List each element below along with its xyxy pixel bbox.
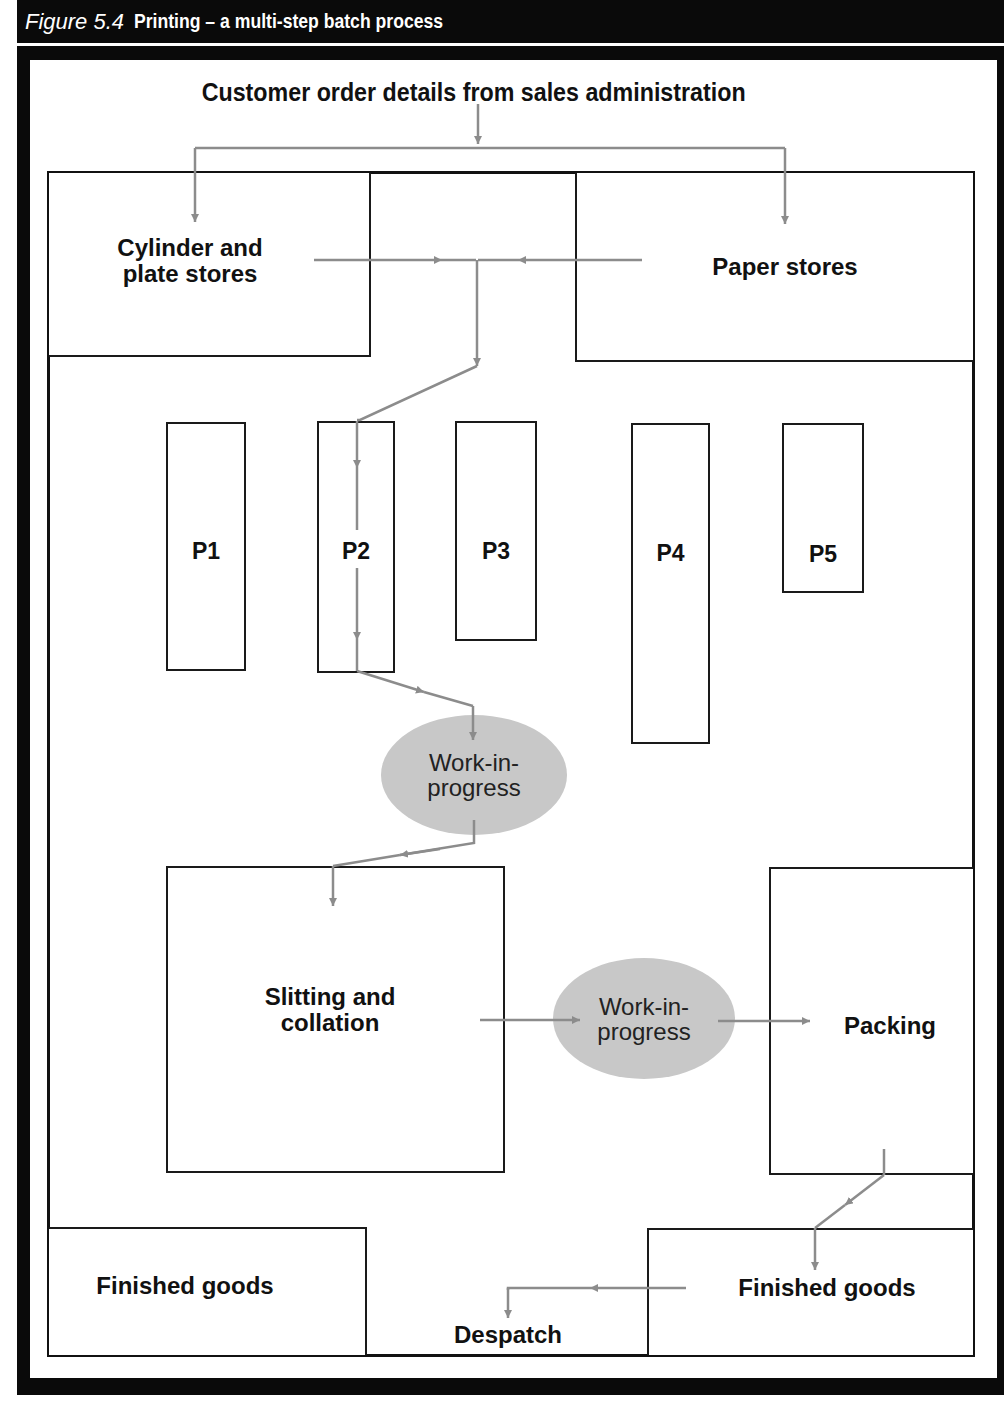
figure-title: Printing – a multi-step batch process [134,10,443,33]
press-p3 [455,421,537,641]
work-in-progress-node-1: Work-in- progress [381,715,567,835]
paper-stores-label: Paper stores [690,254,880,280]
press-p1-label: P1 [166,538,246,564]
press-p4 [631,423,710,744]
despatch-label: Despatch [440,1322,576,1348]
figure-number: Figure 5.4 [25,9,124,35]
press-p5 [782,423,864,593]
figure-header: Figure 5.4 Printing – a multi-step batch… [17,0,1004,43]
work-in-progress-1-label: Work-in- progress [427,750,520,800]
press-p2-label: P2 [317,538,395,564]
finished-goods-right-label: Finished goods [727,1275,927,1301]
finished-goods-left-label: Finished goods [85,1273,285,1299]
work-in-progress-2-label: Work-in- progress [597,994,690,1044]
cylinder-plate-stores-label: Cylinder and plate stores [95,235,285,287]
press-p3-label: P3 [455,538,537,564]
press-p5-label: P5 [782,541,864,567]
work-in-progress-node-2: Work-in- progress [553,958,735,1079]
packing-label: Packing [825,1013,955,1039]
source-label: Customer order details from sales admini… [190,79,757,105]
slitting-collation-label: Slitting and collation [230,984,430,1036]
press-p4-label: P4 [631,540,710,566]
